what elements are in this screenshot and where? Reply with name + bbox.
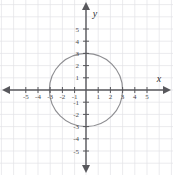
- y-tick-label: 1: [76, 74, 80, 82]
- y-tick-label: -2: [73, 111, 79, 119]
- x-tick-label: -5: [23, 93, 29, 101]
- x-tick-label: -2: [59, 93, 65, 101]
- y-tick-label: -3: [73, 123, 79, 131]
- y-axis-down-arrow-icon: [82, 165, 90, 173]
- y-tick-label: -1: [73, 99, 79, 107]
- y-tick-label: 3: [76, 50, 80, 58]
- x-axis-label: x: [156, 73, 162, 84]
- y-tick-label: -4: [73, 135, 79, 143]
- y-tick-label: 5: [76, 26, 80, 34]
- y-tick-label: -5: [73, 148, 79, 156]
- y-tick-label: 4: [76, 38, 80, 46]
- x-tick-label: -4: [35, 93, 41, 101]
- x-tick-label: 4: [133, 93, 137, 101]
- x-axis-right-arrow-icon: [163, 86, 171, 94]
- graph-canvas: -5 -4 -3 -2 -1 1 2 3 4 5 5 4 3 2 1 -1 -2…: [0, 0, 173, 175]
- x-tick-label: 2: [109, 93, 113, 101]
- x-tick-label: 1: [96, 93, 100, 101]
- x-tick-label: -3: [47, 93, 53, 101]
- x-axis-left-arrow-icon: [2, 86, 10, 94]
- y-axis-label: y: [92, 8, 98, 19]
- y-axis: [82, 2, 90, 173]
- x-tick-label: 3: [121, 93, 125, 101]
- y-axis-up-arrow-icon: [82, 2, 90, 10]
- y-tick-label: 2: [76, 62, 80, 70]
- coordinate-plane-figure: -5 -4 -3 -2 -1 1 2 3 4 5 5 4 3 2 1 -1 -2…: [0, 0, 173, 175]
- x-tick-label: 5: [145, 93, 149, 101]
